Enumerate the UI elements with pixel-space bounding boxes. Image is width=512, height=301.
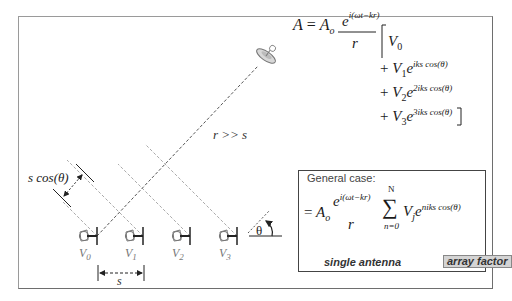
sum-upper-limit: N [388, 185, 395, 194]
antenna-label-v2: V2 [172, 247, 184, 262]
sum-symbol: ∑ [382, 196, 398, 218]
angle-arc-icon [266, 221, 272, 236]
general-term: Vjeniks cos(θ) [403, 203, 461, 222]
eq-term-2: + V2e2iks cos(θ) [380, 84, 452, 103]
angle-label: θ [256, 224, 262, 237]
wavefront-lines [62, 144, 237, 236]
general-amplitude: = Ao [304, 205, 330, 223]
eq-term-3: + V3e3iks cos(θ) [380, 108, 452, 127]
eq-denominator: r [352, 36, 358, 51]
antenna-v0-icon [80, 227, 98, 245]
main-bracket-close [457, 108, 461, 125]
spacing-label: s [117, 275, 122, 287]
eq-numerator: ei(ωt−kr) [342, 13, 380, 29]
main-bracket [382, 25, 386, 58]
single-antenna-label: single antenna [324, 257, 401, 268]
ray-label: r >> s [213, 128, 247, 141]
general-case-heading: General case: [307, 173, 375, 184]
antenna-v2-icon [173, 227, 191, 245]
receiver-dish-icon [254, 39, 282, 66]
general-denominator: r [348, 217, 354, 232]
sum-lower-limit: n=0 [384, 222, 399, 231]
eq-term-0: V0 [388, 34, 402, 52]
antenna-v3-icon [220, 227, 238, 245]
array-factor-label: array factor [443, 255, 512, 268]
antenna-v1-icon [126, 227, 144, 245]
general-numerator: ei(ωt−kr) [333, 193, 371, 209]
eq-lhs: A = Ao [293, 17, 335, 36]
antenna-label-v3: V3 [219, 247, 231, 262]
path-difference-label: s cos(θ) [28, 171, 69, 184]
ray-line [97, 66, 258, 236]
antenna-label-v1: V1 [125, 247, 137, 262]
antenna-label-v0: V0 [79, 247, 91, 262]
eq-term-1: + V1eiks cos(θ) [380, 60, 448, 79]
